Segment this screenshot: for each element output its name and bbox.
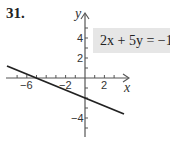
equation-label: 2x + 5y = −10 — [100, 33, 170, 49]
y-tick-label: 2 — [77, 52, 83, 64]
y-tick-label: 4 — [77, 32, 83, 44]
graph: −6 −2 2 4 2 −4 y x — [0, 0, 170, 143]
x-axis-label: x — [123, 80, 131, 95]
x-tick-label: 2 — [101, 79, 107, 91]
y-axis-label: y — [73, 6, 82, 21]
x-tick-label: −6 — [20, 79, 33, 91]
y-tick-label: −4 — [71, 112, 84, 124]
